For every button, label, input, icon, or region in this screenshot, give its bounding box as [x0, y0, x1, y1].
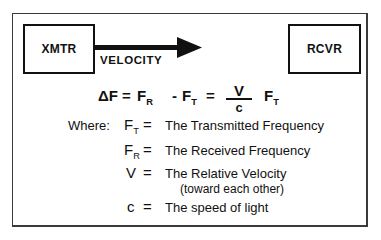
symbol-fr: FR: [124, 141, 140, 161]
velocity-over-c-fraction: V c: [226, 84, 252, 114]
symbol-c: c: [127, 198, 135, 215]
definition-text: The Transmitted Frequency: [165, 118, 324, 133]
receiver-box: RCVR: [288, 24, 361, 74]
fraction-denominator: c: [226, 101, 252, 114]
equals: =: [143, 198, 152, 215]
term-ft-2: FT: [264, 87, 279, 107]
symbol-ft: FT: [124, 116, 139, 136]
minus-sign: -: [172, 87, 177, 104]
definition-subtext: (toward each other): [180, 182, 284, 196]
transmitter-box: XMTR: [23, 24, 95, 74]
definition-text: The Relative Velocity: [165, 166, 286, 181]
definition-text: The Received Frequency: [165, 143, 310, 158]
delta-f: ΔF: [98, 87, 118, 104]
definition-text: The speed of light: [165, 200, 268, 215]
where-label: Where:: [68, 118, 110, 133]
transmitter-label: XMTR: [41, 42, 76, 56]
symbol-v: V: [126, 164, 136, 181]
equals-sign-2: =: [206, 87, 215, 104]
equals: =: [143, 141, 152, 158]
equals-sign: =: [122, 87, 131, 104]
term-fr: FR: [137, 87, 153, 107]
receiver-label: RCVR: [307, 42, 342, 56]
equals: =: [143, 164, 152, 181]
velocity-label: VELOCITY: [100, 54, 162, 66]
fraction-numerator: V: [226, 84, 252, 97]
equals: =: [143, 116, 152, 133]
term-ft: FT: [182, 87, 197, 107]
